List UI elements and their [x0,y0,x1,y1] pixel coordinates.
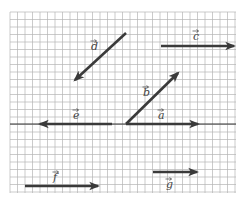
vector-g-label: g [166,178,173,191]
vector-c-label: c [193,30,199,43]
vector-e-label: e [73,109,80,122]
vector-d-label: d [91,40,98,53]
vector-diagram: dcebafg [0,0,246,200]
vector-b-label: b [143,86,150,99]
paper-background [0,0,246,200]
vector-a-label: a [158,109,165,122]
